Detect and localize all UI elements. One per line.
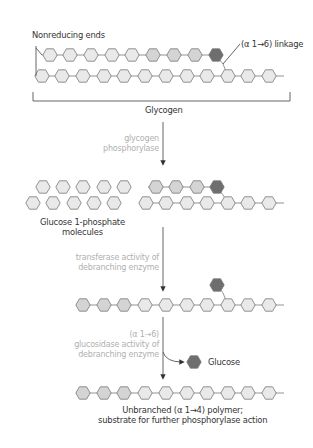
enzyme-label-line: phosphorylase: [103, 144, 159, 154]
glucose-residue: [63, 49, 77, 61]
glucose-residue: [221, 299, 235, 311]
glucose-residue: [138, 70, 152, 82]
glucose-residue: [262, 387, 276, 399]
glucose-1-phosphate: [87, 197, 101, 209]
glucose-1-phosphate: [26, 197, 40, 209]
glucose-residue: [188, 49, 202, 61]
glucose-residue: [138, 299, 152, 311]
glucose-residue: [159, 387, 173, 399]
label-line: molecules: [40, 227, 125, 237]
glucose-residue: [241, 70, 255, 82]
glucose-residue: [221, 70, 235, 82]
glucose-residue: [241, 299, 255, 311]
free-glucose: [187, 356, 201, 368]
branch-point-residue: [210, 181, 224, 193]
enzyme-label-line: (α 1→6): [74, 330, 159, 340]
glucose-residue: [180, 70, 194, 82]
glucose-residue: [97, 70, 111, 82]
enzyme-label-line: glucosidase activity of: [74, 340, 159, 350]
glycogen-label: Glycogen: [145, 105, 183, 115]
glucose-residue: [262, 299, 276, 311]
glucose-label: Glucose: [208, 357, 240, 367]
glucose-residue: [117, 299, 131, 311]
enzyme-label-line: glycogen: [103, 134, 159, 144]
glucose-1-phosphate: [46, 197, 60, 209]
glucose-residue: [200, 197, 214, 209]
glucose-residue: [139, 197, 153, 209]
glucose-1-phosphate: [107, 197, 121, 209]
glucose-residue: [180, 197, 194, 209]
glucose-residue: [35, 70, 49, 82]
glucose-residue: [149, 181, 163, 193]
glucose-residue: [159, 197, 173, 209]
glucose-residue: [97, 299, 111, 311]
arrow-glucose-release: [163, 352, 182, 362]
glucose-1-phosphate: [67, 197, 81, 209]
enzyme-glycogen-phosphorylase: glycogen phosphorylase: [103, 134, 159, 154]
glucose-residue: [180, 299, 194, 311]
glucose-residue: [117, 387, 131, 399]
enzyme-transferase-activity: transferase activity of debranching enzy…: [76, 253, 159, 273]
glucose-residue: [159, 70, 173, 82]
glucose-1-phosphate: [36, 181, 50, 193]
glucose-1-phosphate: [117, 181, 131, 193]
glucose-residue: [221, 387, 235, 399]
enzyme-glucosidase-activity: (α 1→6) glucosidase activity of debranch…: [74, 330, 159, 360]
enzyme-label-line: transferase activity of: [76, 253, 159, 263]
glucose-residue: [190, 181, 204, 193]
glucose-residue: [125, 49, 139, 61]
glucose-residue: [241, 197, 255, 209]
glucose-1-phosphate: [97, 181, 111, 193]
product-label: Unbranched (α 1→4) polymer; substrate fo…: [98, 405, 267, 425]
glucose-residue: [167, 49, 181, 61]
enzyme-label-line: debranching enzyme: [74, 350, 159, 360]
linkage-pointer: [223, 44, 240, 64]
glucose-1-phosphate-label: Glucose 1-phosphate molecules: [40, 217, 125, 237]
glucose-residue: [84, 49, 98, 61]
glucose-residue: [76, 387, 90, 399]
glucose-residue: [262, 197, 276, 209]
glucose-residue: [146, 49, 160, 61]
glucose-residue: [55, 70, 69, 82]
label-line: Glucose 1-phosphate: [40, 217, 125, 227]
glycogen-bracket: [33, 92, 290, 101]
glucose-residue: [43, 49, 57, 61]
glucose-residue: [76, 299, 90, 311]
branch-point-residue: [209, 49, 223, 61]
glucose-residue: [262, 70, 276, 82]
linkage-label: (α 1→6) linkage: [241, 39, 303, 49]
glucose-residue: [105, 49, 119, 61]
glucose-residue: [200, 299, 214, 311]
glucose-residue: [200, 70, 214, 82]
branch-point-residue: [210, 279, 224, 291]
glucose-residue: [169, 181, 183, 193]
label-line: substrate for further phosphorylase acti…: [98, 415, 267, 425]
glucose-residue: [241, 387, 255, 399]
glucose-residue: [180, 387, 194, 399]
glucose-residue: [200, 387, 214, 399]
glucose-1-phosphate: [76, 181, 90, 193]
glucose-residue: [159, 299, 173, 311]
label-line: Unbranched (α 1→4) polymer;: [98, 405, 267, 415]
nonreducing-ends-label: Nonreducing ends: [32, 30, 105, 40]
glucose-1-phosphate: [56, 181, 70, 193]
enzyme-label-line: debranching enzyme: [76, 263, 159, 273]
glucose-residue: [76, 70, 90, 82]
glucose-residue: [117, 70, 131, 82]
glucose-residue: [221, 197, 235, 209]
glucose-residue: [97, 387, 111, 399]
glucose-residue: [138, 387, 152, 399]
